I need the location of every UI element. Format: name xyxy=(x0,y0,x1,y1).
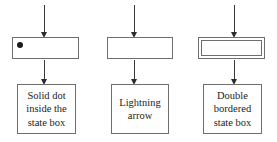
arrow-shaft xyxy=(134,5,135,33)
caption-box-double-bordered: Double bordered state box xyxy=(203,84,262,134)
arrow-shaft xyxy=(234,5,235,33)
down-arrow-icon xyxy=(230,60,239,85)
diagram-canvas: Solid dot inside the state box Lightning… xyxy=(0,0,277,142)
state-box-plain xyxy=(107,37,173,59)
solid-dot-icon xyxy=(17,42,23,48)
diagram-column-double-bordered: Double bordered state box xyxy=(185,0,277,142)
caption-label: Solid dot inside the state box xyxy=(24,89,69,130)
down-arrow-icon xyxy=(40,5,49,38)
inner-border xyxy=(201,40,262,56)
down-arrow-icon xyxy=(40,60,49,85)
state-box-double-bordered xyxy=(198,37,265,59)
diagram-column-solid-dot: Solid dot inside the state box xyxy=(0,0,95,142)
state-box-solid-dot xyxy=(12,37,79,59)
diagram-column-lightning-arrow: Lightning arrow xyxy=(95,0,185,142)
arrow-shaft xyxy=(234,60,235,80)
caption-box-lightning-arrow: Lightning arrow xyxy=(111,84,169,134)
arrow-shaft xyxy=(134,60,135,80)
caption-label: Lightning arrow xyxy=(117,96,162,123)
arrow-shaft xyxy=(44,5,45,33)
arrow-shaft xyxy=(44,60,45,80)
down-arrow-icon xyxy=(130,5,139,38)
caption-box-solid-dot: Solid dot inside the state box xyxy=(17,84,76,134)
caption-label: Double bordered state box xyxy=(212,89,254,130)
down-arrow-icon xyxy=(230,5,239,38)
down-arrow-icon xyxy=(130,60,139,85)
